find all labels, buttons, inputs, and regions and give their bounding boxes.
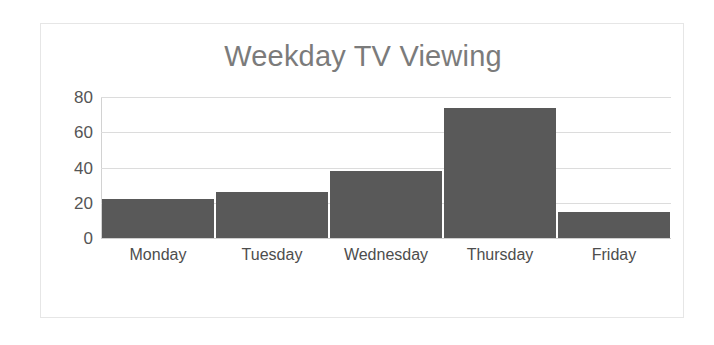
x-label-monday: Monday [101, 246, 215, 264]
y-tick-label-80: 80 [49, 89, 93, 106]
x-axis-category-labels: Monday Tuesday Wednesday Thursday Friday [101, 246, 671, 264]
bar-slot-monday [101, 97, 215, 238]
bar-tuesday[interactable] [216, 192, 328, 238]
x-label-thursday: Thursday [443, 246, 557, 264]
bar-slot-thursday [443, 97, 557, 238]
y-tick-label-60: 60 [49, 124, 93, 141]
x-label-wednesday: Wednesday [329, 246, 443, 264]
gridline-baseline-0 [101, 238, 671, 239]
bar-wednesday[interactable] [330, 171, 442, 238]
chart-title: Weekday TV Viewing [41, 40, 685, 73]
plot-area [101, 97, 671, 238]
x-label-tuesday: Tuesday [215, 246, 329, 264]
bar-series [101, 97, 671, 238]
bar-friday[interactable] [558, 212, 670, 238]
y-tick-label-20: 20 [49, 195, 93, 212]
bar-monday[interactable] [102, 199, 214, 238]
bar-thursday[interactable] [444, 108, 556, 238]
chart-container: Weekday TV Viewing 80 60 40 20 0 [40, 23, 684, 318]
bar-slot-tuesday [215, 97, 329, 238]
y-tick-label-0: 0 [49, 230, 93, 247]
y-axis-tick-labels: 80 60 40 20 0 [41, 97, 93, 238]
x-label-friday: Friday [557, 246, 671, 264]
bar-slot-wednesday [329, 97, 443, 238]
y-tick-label-40: 40 [49, 160, 93, 177]
bar-slot-friday [557, 97, 671, 238]
